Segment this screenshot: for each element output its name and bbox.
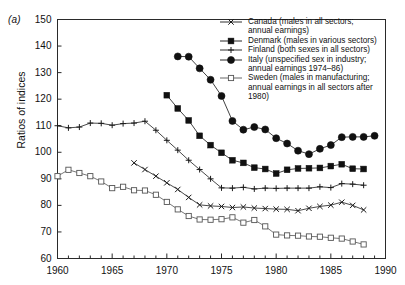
y-tick-label: 90 <box>26 174 52 184</box>
x-tick-label: 1965 <box>92 266 132 276</box>
chart-legend: Canada (males in all sectors;annual earn… <box>218 17 400 102</box>
legend-marker-open-square-icon <box>218 73 246 82</box>
legend-marker-cross-x-icon <box>218 17 246 26</box>
legend-label-line: Sweden (males in manufacturing; <box>248 73 400 82</box>
legend-marker-plus-icon <box>218 45 246 54</box>
x-tick-label: 1970 <box>147 266 187 276</box>
legend-label-line: 1980) <box>248 92 400 101</box>
series-denmark <box>164 92 367 176</box>
legend-label-line: Denmark (males in various sectors) <box>248 36 400 45</box>
legend-label-line: annual earnings 1974–86) <box>248 64 400 73</box>
x-tick-label: 1980 <box>256 266 296 276</box>
legend-label-line: Finland (both sexes in all sectors) <box>248 45 400 54</box>
y-tick-label: 110 <box>26 121 52 131</box>
y-tick-label: 140 <box>26 41 52 51</box>
chart-figure: (a) Ratios of indices 607080901001101201… <box>0 0 405 285</box>
y-tick-label: 100 <box>26 147 52 157</box>
y-tick-label: 80 <box>26 200 52 210</box>
x-tick-label: 1985 <box>311 266 351 276</box>
y-tick-label: 130 <box>26 68 52 78</box>
legend-entry-denmark[interactable]: Denmark (males in various sectors) <box>218 36 400 45</box>
legend-entry-canada[interactable]: Canada (males in all sectors;annual earn… <box>218 17 400 36</box>
y-tick-label: 70 <box>26 227 52 237</box>
legend-marker-filled-circle-icon <box>218 55 246 64</box>
y-tick-label: 60 <box>26 254 52 264</box>
x-tick-label: 1975 <box>202 266 242 276</box>
legend-label-line: annual earnings in all sectors after <box>248 83 400 92</box>
y-tick-label: 120 <box>26 94 52 104</box>
x-tick-label: 1990 <box>366 266 405 276</box>
legend-label-line: Italy (unspecified sex in industry; <box>248 55 400 64</box>
legend-marker-filled-square-icon <box>218 36 246 45</box>
legend-entry-sweden[interactable]: Sweden (males in manufacturing;annual ea… <box>218 73 400 101</box>
legend-entry-italy[interactable]: Italy (unspecified sex in industry;annua… <box>218 55 400 74</box>
y-tick-label: 150 <box>26 15 52 25</box>
legend-label-line: annual earnings) <box>248 26 400 35</box>
legend-entry-finland[interactable]: Finland (both sexes in all sectors) <box>218 45 400 54</box>
legend-label-line: Canada (males in all sectors; <box>248 17 400 26</box>
x-tick-label: 1960 <box>38 266 78 276</box>
